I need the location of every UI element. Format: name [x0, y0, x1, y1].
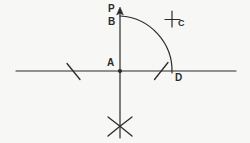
- geometry-diagram: P B A C D: [0, 0, 250, 143]
- geometry-canvas: [0, 0, 250, 143]
- point-label-c: C: [178, 19, 185, 28]
- vertex-dot-icon: [118, 69, 122, 73]
- arc-b-to-d: [120, 16, 172, 73]
- point-label-a: A: [107, 58, 114, 68]
- point-label-b: B: [108, 17, 115, 27]
- point-label-p: P: [108, 4, 115, 14]
- point-label-d: D: [175, 73, 182, 83]
